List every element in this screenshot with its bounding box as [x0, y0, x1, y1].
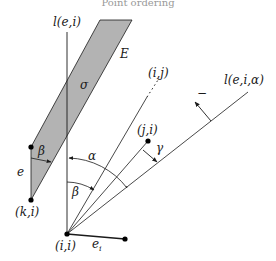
- label-e-i: ei: [92, 237, 102, 253]
- label-i-i: (i,i): [55, 239, 76, 253]
- ray-to-i-j-dotted: [147, 80, 158, 97]
- gamma-arrow: [143, 150, 157, 162]
- label-sigma: σ: [80, 78, 89, 92]
- normal-arrow: [195, 102, 211, 121]
- label-l-e-i-alpha: l(e,i,α): [224, 73, 264, 87]
- label-e: e: [17, 165, 24, 179]
- point-e-i-end: [122, 236, 127, 241]
- point-i-i: [64, 231, 69, 236]
- label-beta-lower: β: [71, 185, 79, 199]
- ray-to-j-i: [67, 141, 148, 234]
- point-k-i: [28, 197, 33, 202]
- label-beta-region: β: [37, 144, 45, 158]
- label-gamma: γ: [156, 141, 164, 155]
- label-l-e-i: l(e,i): [53, 15, 81, 29]
- ray-to-i-j: [67, 97, 147, 234]
- point-j-i: [145, 138, 150, 143]
- geometry-diagram: Point ordering l(e,i) E σ (i,j) l(e,i,α)…: [0, 0, 276, 261]
- point-e-top: [28, 144, 33, 149]
- region-sigma: [31, 20, 132, 200]
- label-k-i: (k,i): [15, 205, 40, 219]
- label-E: E: [119, 47, 129, 61]
- label-i-j: (i,j): [148, 66, 169, 80]
- label-minus: −: [197, 86, 207, 100]
- caption-text: Point ordering: [101, 0, 175, 8]
- label-alpha: α: [88, 149, 96, 163]
- label-j-i: (j,i): [137, 123, 158, 137]
